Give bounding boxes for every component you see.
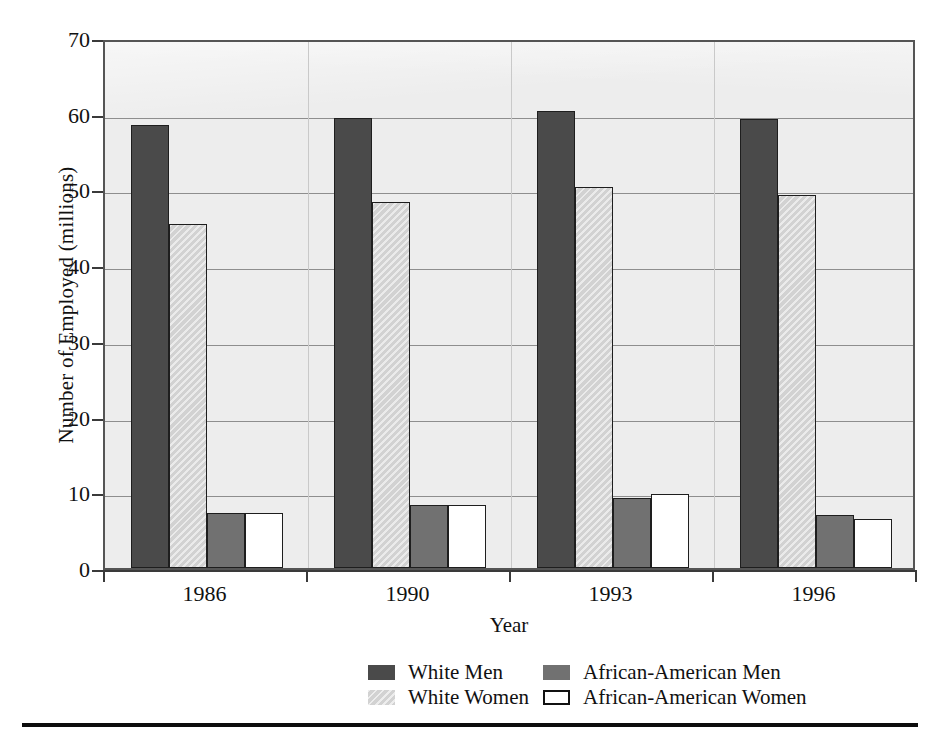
legend-item: African-American Men bbox=[543, 660, 868, 685]
x-tick-mark bbox=[712, 570, 714, 582]
x-tick-mark bbox=[306, 570, 308, 582]
bar bbox=[169, 224, 207, 568]
bar bbox=[575, 187, 613, 568]
y-tick-label: 70 bbox=[44, 29, 90, 51]
legend-item: White Men bbox=[368, 660, 543, 685]
gridline bbox=[105, 118, 913, 119]
bottom-divider-rule bbox=[22, 723, 918, 727]
bar bbox=[131, 125, 169, 568]
bar-chart-figure: Number of Employed (millions) 0102030405… bbox=[0, 0, 938, 740]
bar bbox=[854, 519, 892, 568]
bar bbox=[372, 202, 410, 568]
x-tick-label: 1986 bbox=[103, 581, 306, 607]
legend-label: African-American Women bbox=[583, 685, 807, 710]
bar bbox=[778, 195, 816, 568]
y-tick-label: 10 bbox=[44, 483, 90, 505]
y-tick-label: 40 bbox=[44, 256, 90, 278]
legend-item: White Women bbox=[368, 685, 543, 710]
legend-label: White Women bbox=[408, 685, 529, 710]
bar bbox=[245, 513, 283, 568]
y-tick-label: 30 bbox=[44, 332, 90, 354]
y-tick-mark bbox=[92, 343, 103, 345]
y-tick-mark bbox=[92, 494, 103, 496]
group-divider bbox=[511, 42, 512, 568]
x-tick-mark bbox=[509, 570, 511, 582]
legend-swatch-icon bbox=[368, 665, 395, 680]
bar bbox=[207, 513, 245, 568]
bar bbox=[816, 515, 854, 568]
y-axis-tick-labels: 010203040506070 bbox=[44, 0, 90, 740]
legend-swatch-icon bbox=[543, 665, 570, 680]
legend-label: White Men bbox=[408, 660, 503, 685]
plot-area bbox=[103, 40, 915, 570]
bar bbox=[537, 111, 575, 568]
x-tick-label: 1990 bbox=[306, 581, 509, 607]
y-tick-mark bbox=[92, 40, 103, 42]
legend-swatch-icon bbox=[368, 690, 395, 705]
bar bbox=[448, 505, 486, 568]
y-tick-mark bbox=[92, 116, 103, 118]
y-tick-label: 0 bbox=[44, 559, 90, 581]
x-tick-label: 1996 bbox=[712, 581, 915, 607]
y-tick-mark bbox=[92, 570, 103, 572]
legend-item: African-American Women bbox=[543, 685, 868, 710]
group-divider bbox=[308, 42, 309, 568]
group-divider bbox=[714, 42, 715, 568]
bar bbox=[651, 494, 689, 568]
chart-legend: White MenAfrican-American MenWhite Women… bbox=[368, 660, 868, 710]
y-tick-mark bbox=[92, 267, 103, 269]
y-tick-mark bbox=[92, 191, 103, 193]
bar bbox=[740, 119, 778, 568]
y-tick-mark bbox=[92, 419, 103, 421]
x-axis-title: Year bbox=[103, 613, 915, 638]
y-tick-label: 50 bbox=[44, 180, 90, 202]
bar bbox=[613, 498, 651, 568]
legend-label: African-American Men bbox=[583, 660, 781, 685]
x-tick-label: 1993 bbox=[509, 581, 712, 607]
x-tick-mark bbox=[915, 570, 917, 582]
x-tick-mark bbox=[103, 570, 105, 582]
y-tick-label: 60 bbox=[44, 105, 90, 127]
bar bbox=[334, 118, 372, 568]
bar bbox=[410, 505, 448, 568]
y-tick-label: 20 bbox=[44, 408, 90, 430]
legend-swatch-icon bbox=[543, 690, 570, 705]
